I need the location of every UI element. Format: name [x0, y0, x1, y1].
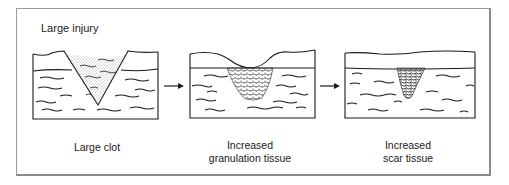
caption-granulation-tissue: Increased granulation tissue — [170, 139, 330, 165]
panel-scar-tissue — [345, 51, 475, 118]
panel-large-clot — [33, 51, 158, 119]
caption-scar-tissue: Increased scar tissue — [328, 139, 488, 165]
arrow-icon — [320, 83, 340, 89]
caption-large-clot: Large clot — [17, 141, 177, 154]
panel-granulation-tissue — [190, 50, 315, 118]
arrow-icon — [164, 83, 184, 89]
